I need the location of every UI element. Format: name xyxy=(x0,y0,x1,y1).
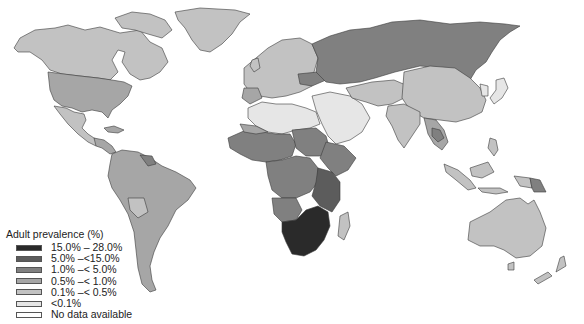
region-new-zealand xyxy=(534,256,566,284)
legend-swatch xyxy=(16,289,42,295)
legend-item: 0.1% –< 0.5% xyxy=(6,287,166,298)
legend-swatch xyxy=(16,267,42,273)
region-central-africa xyxy=(266,156,318,198)
legend-label: 0.5% –< 1.0% xyxy=(51,276,117,287)
region-mexico xyxy=(54,106,100,146)
region-madagascar xyxy=(338,212,350,240)
legend-swatch xyxy=(16,278,42,284)
region-india xyxy=(386,104,420,148)
region-central-america xyxy=(94,138,116,154)
legend-swatch xyxy=(16,245,42,251)
legend-swatch xyxy=(16,312,42,318)
legend-label: No data available xyxy=(51,309,132,320)
legend-item: No data available xyxy=(6,309,166,320)
map-legend: Adult prevalence (%) 15.0% – 28.0% 5.0% … xyxy=(6,228,166,320)
region-papua xyxy=(514,176,532,188)
legend-item: 1.0% –< 5.0% xyxy=(6,264,166,275)
region-indonesia xyxy=(444,162,508,194)
legend-swatch xyxy=(16,301,42,307)
region-japan xyxy=(490,78,508,104)
region-papua-new-guinea xyxy=(530,178,546,192)
region-tasmania xyxy=(508,262,514,270)
legend-label: 1.0% –< 5.0% xyxy=(51,264,117,275)
legend-swatch xyxy=(16,256,42,262)
legend-title: Adult prevalence (%) xyxy=(6,228,166,240)
region-australia xyxy=(468,198,546,258)
region-greenland xyxy=(175,8,250,52)
region-west-africa xyxy=(228,130,296,162)
region-caribbean xyxy=(104,126,124,133)
region-iberia xyxy=(242,88,262,104)
region-philippines xyxy=(488,138,498,156)
